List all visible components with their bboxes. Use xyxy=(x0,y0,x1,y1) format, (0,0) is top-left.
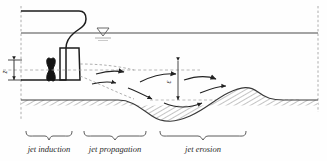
zone-label-jet-erosion: jet erosion xyxy=(184,144,221,154)
water-surface-group xyxy=(21,28,318,41)
dimension-label-z: z xyxy=(0,70,9,74)
brace-jet-induction xyxy=(26,131,72,140)
zone-braces xyxy=(26,131,246,140)
zone-label-jet-propagation: jet propagation xyxy=(88,144,141,154)
dimension-label-epsilon: ε xyxy=(164,80,173,83)
flow-arrow-lower-2 xyxy=(128,88,152,99)
zone-label-jet-induction: jet induction xyxy=(27,144,71,154)
dimension-scour-depth: ε xyxy=(164,61,178,100)
rudder xyxy=(60,48,80,80)
brace-jet-erosion xyxy=(160,131,246,140)
diagram-canvas: z ε jet induction jet propagation jet er… xyxy=(0,0,327,161)
flow-arrow-upper-1 xyxy=(96,71,124,74)
flow-arrow-mid-2 xyxy=(184,76,216,80)
brace-jet-propagation xyxy=(84,131,146,140)
flow-arrow-upslope xyxy=(200,86,226,93)
water-level-symbol xyxy=(95,28,111,41)
propeller xyxy=(47,58,56,81)
scour-diagram-svg: z ε jet induction jet propagation jet er… xyxy=(0,0,327,161)
